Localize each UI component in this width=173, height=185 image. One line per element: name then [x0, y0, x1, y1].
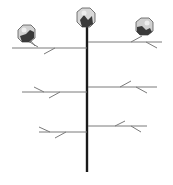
- middle-left-branch: [22, 87, 87, 98]
- cotton-plant-diagram: [0, 0, 173, 185]
- lower-right-branch: [88, 121, 147, 132]
- upper-right-branch: [88, 36, 162, 48]
- middle-right-branch: [88, 81, 157, 93]
- top-boll: [77, 8, 95, 27]
- upper-left-branch: [12, 41, 87, 54]
- upper-left-boll: [18, 25, 35, 46]
- upper-right-boll: [136, 18, 153, 35]
- lower-left-branch: [39, 127, 87, 138]
